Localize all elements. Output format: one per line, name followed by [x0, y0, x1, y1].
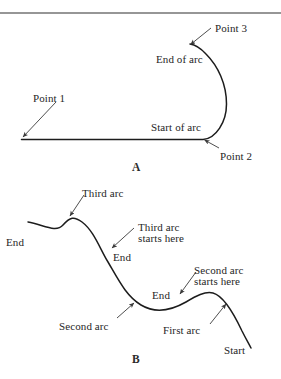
- panel-letter-a: A: [132, 161, 141, 173]
- label-third-arc-starts-here-line2: starts here: [138, 233, 184, 245]
- label-end-right: End: [152, 290, 170, 302]
- label-start: Start: [224, 345, 245, 357]
- arrow-point-2: [205, 140, 220, 148]
- label-end-middle: End: [113, 252, 131, 264]
- arrow-second-arc: [117, 303, 134, 318]
- label-point-2: Point 2: [220, 151, 252, 163]
- label-point-1: Point 1: [33, 93, 65, 105]
- panel-letter-b: B: [132, 353, 140, 365]
- label-third-arc: Third arc: [82, 188, 124, 200]
- label-second-arc: Second arc: [59, 321, 109, 333]
- label-first-arc: First arc: [163, 325, 200, 337]
- label-end-of-arc: End of arc: [156, 54, 203, 66]
- arrow-point-1: [23, 102, 56, 137]
- arrow-point-3: [191, 28, 212, 45]
- label-end-left: End: [6, 237, 24, 249]
- figure-container: Point 3End of arcPoint 1Start of arcPoin…: [0, 0, 281, 379]
- label-second-arc-starts-here-line2: starts here: [194, 276, 240, 288]
- label-start-of-arc: Start of arc: [151, 122, 201, 134]
- label-point-3: Point 3: [215, 23, 247, 35]
- arrow-third-arc-starts-here: [112, 228, 134, 248]
- figure-vector-canvas: [0, 0, 281, 379]
- arrow-first-arc: [210, 304, 226, 324]
